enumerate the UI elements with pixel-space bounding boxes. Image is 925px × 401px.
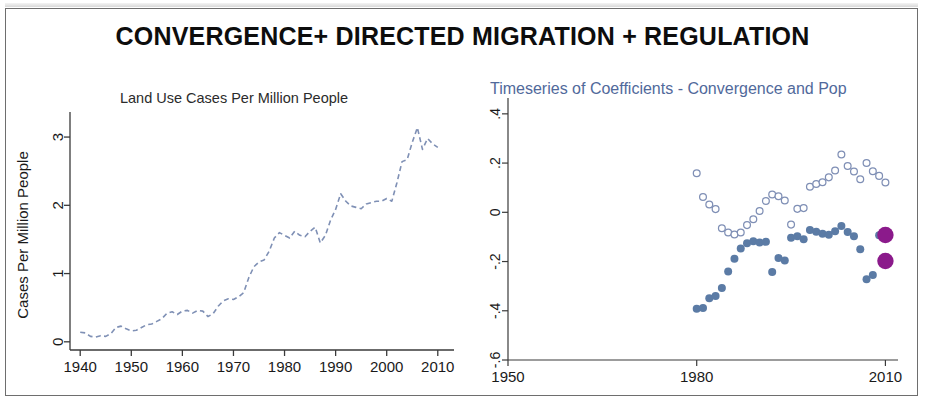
line-series-land-use bbox=[80, 128, 438, 338]
marker-filled-1-1 bbox=[699, 304, 707, 312]
x-tick-label-1: 1950 bbox=[115, 358, 148, 375]
marker-open-0-8 bbox=[744, 222, 751, 229]
y-tick-label-2: 0 bbox=[487, 208, 503, 216]
marker-filled-1-6 bbox=[730, 255, 738, 263]
marker-open-0-17 bbox=[800, 205, 807, 212]
marker-filled-1-23 bbox=[837, 222, 845, 230]
x-tick-label-5: 1990 bbox=[319, 358, 352, 375]
marker-filled-1-22 bbox=[831, 227, 839, 235]
marker-filled-1-17 bbox=[800, 235, 808, 243]
marker-open-0-20 bbox=[819, 179, 826, 186]
marker-open-0-0 bbox=[693, 170, 700, 177]
marker-open-0-2 bbox=[706, 201, 713, 208]
marker-open-0-22 bbox=[832, 167, 839, 174]
marker-open-0-23 bbox=[838, 151, 845, 158]
y-tick-label-1: .2 bbox=[487, 157, 503, 169]
marker-filled-1-5 bbox=[724, 267, 732, 275]
marker-open-0-25 bbox=[851, 168, 858, 175]
marker-filled-1-11 bbox=[762, 238, 770, 246]
marker-open-0-1 bbox=[700, 194, 707, 201]
marker-open-0-15 bbox=[788, 221, 795, 228]
x-tick-label-6: 2000 bbox=[370, 358, 403, 375]
marker-filled-1-3 bbox=[712, 292, 720, 300]
x-tick-label-2: 2010 bbox=[869, 368, 902, 385]
x-tick-label-2: 1960 bbox=[166, 358, 199, 375]
y-tick-label-0: 0 bbox=[50, 338, 67, 346]
marker-open-0-26 bbox=[857, 176, 864, 183]
marker-filled-1-25 bbox=[850, 232, 858, 240]
y-tick-label-5: -.6 bbox=[487, 352, 503, 369]
marker-open-0-7 bbox=[737, 229, 744, 236]
marker-open-0-24 bbox=[844, 163, 851, 170]
land-use-line-chart: 012319401950196019701980199020002010Case… bbox=[8, 78, 460, 396]
scatter-series-2 bbox=[877, 227, 893, 269]
marker-open-0-27 bbox=[863, 160, 870, 167]
y-tick-label-4: -.4 bbox=[487, 302, 503, 319]
x-tick-label-1: 1980 bbox=[680, 368, 713, 385]
marker-filled-1-26 bbox=[856, 245, 864, 253]
page-title: CONVERGENCE+ DIRECTED MIGRATION + REGULA… bbox=[0, 22, 925, 51]
y-tick-label-1: 1 bbox=[50, 269, 67, 277]
slide-canvas: CONVERGENCE+ DIRECTED MIGRATION + REGULA… bbox=[0, 0, 925, 401]
slide-frame-shadow bbox=[5, 3, 918, 7]
marker-filled-1-4 bbox=[718, 284, 726, 292]
marker-open-0-14 bbox=[781, 197, 788, 204]
marker-open-0-29 bbox=[876, 172, 883, 179]
x-tick-label-0: 1940 bbox=[64, 358, 97, 375]
marker-open-0-30 bbox=[882, 179, 889, 186]
marker-filled-1-7 bbox=[737, 244, 745, 252]
chart-panel-coefficients: Timeseries of Coefficients - Convergence… bbox=[460, 78, 920, 396]
marker-filled-1-28 bbox=[869, 271, 877, 279]
coefficients-scatter-chart: .4.20-.2-.4-.6195019802010 bbox=[460, 78, 920, 396]
marker-open-0-4 bbox=[718, 225, 725, 232]
y-tick-label-2: 2 bbox=[50, 201, 67, 209]
marker-open-0-13 bbox=[775, 193, 782, 200]
marker-open-0-10 bbox=[756, 208, 763, 215]
y-tick-label-3: -.2 bbox=[487, 253, 503, 270]
y-tick-label-0: .4 bbox=[487, 108, 503, 120]
marker-open-0-9 bbox=[750, 216, 757, 223]
x-tick-label-7: 2010 bbox=[421, 358, 454, 375]
scatter-series-0 bbox=[693, 151, 889, 238]
marker-highlight-1 bbox=[877, 253, 893, 269]
marker-filled-1-12 bbox=[768, 268, 776, 276]
x-tick-label-4: 1980 bbox=[268, 358, 301, 375]
chart-panel-land-use: Land Use Cases Per Million People 012319… bbox=[8, 78, 460, 396]
marker-open-0-28 bbox=[869, 168, 876, 175]
marker-open-0-11 bbox=[763, 198, 770, 205]
y-axis-title: Cases Per Million People bbox=[14, 151, 31, 319]
x-tick-label-0: 1950 bbox=[491, 368, 524, 385]
marker-open-0-3 bbox=[712, 206, 719, 213]
marker-highlight-0 bbox=[877, 227, 893, 243]
marker-open-0-21 bbox=[825, 174, 832, 181]
x-tick-label-3: 1970 bbox=[217, 358, 250, 375]
marker-filled-1-14 bbox=[781, 257, 789, 265]
y-tick-label-3: 3 bbox=[50, 133, 67, 141]
scatter-series-1 bbox=[693, 222, 890, 313]
